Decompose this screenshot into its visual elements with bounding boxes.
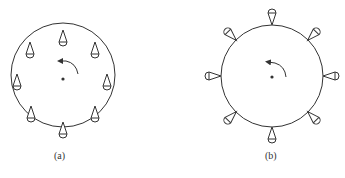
cup-icon	[27, 106, 35, 122]
diagram-canvas	[0, 0, 345, 178]
cup-icon	[103, 74, 111, 90]
cups-a	[13, 30, 111, 138]
center-dot-a	[61, 77, 64, 80]
cup-icon	[268, 127, 276, 143]
caption-a: (a)	[54, 150, 65, 161]
caption-b: (b)	[265, 150, 277, 161]
cup-icon	[222, 26, 239, 43]
cup-icon	[323, 72, 339, 80]
cup-icon	[222, 109, 239, 126]
center-dot-b	[270, 75, 273, 78]
rotation-arrow-a	[60, 61, 78, 74]
cup-icon	[26, 42, 34, 58]
cup-icon	[305, 109, 322, 126]
cup-icon	[59, 122, 67, 138]
cup-icon	[205, 72, 221, 80]
rotation-arrow-b	[268, 62, 286, 77]
cup-icon	[268, 9, 276, 25]
cup-icon	[305, 26, 322, 43]
figure-a	[11, 23, 115, 138]
cup-icon	[59, 30, 67, 46]
cup-icon	[91, 42, 99, 58]
cup-icon	[13, 74, 21, 90]
figure-b	[205, 9, 339, 143]
cup-icon	[91, 106, 99, 122]
